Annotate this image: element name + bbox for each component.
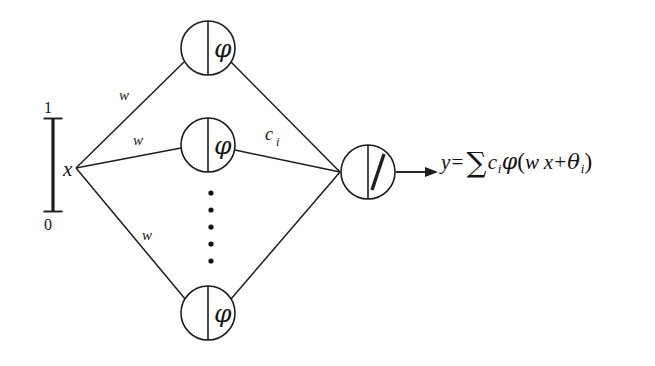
- output-formula: y=∑ciφ(w x+θi): [441, 146, 592, 179]
- formula-w: w: [525, 150, 539, 174]
- neural-network-figure: 1 0 x w w w c i φ: [0, 0, 655, 366]
- formula-plus: +: [554, 150, 566, 174]
- formula-equals: =: [452, 150, 464, 174]
- output-arrow-head: [425, 167, 438, 177]
- input-range-top-label: 1: [44, 99, 52, 116]
- diagram-canvas: 1 0 x w w w c i φ: [0, 0, 655, 366]
- ellipsis-dot: [208, 241, 213, 246]
- hidden-node-bottom-phi-glyph: φ: [214, 299, 232, 328]
- formula-y: y: [441, 150, 451, 174]
- ellipsis-dot: [208, 190, 213, 195]
- hidden-node-top-phi-glyph: φ: [214, 34, 232, 63]
- hidden-node-bottom[interactable]: φ: [181, 286, 235, 340]
- input-range-bottom-label: 0: [44, 216, 52, 233]
- ellipsis-dot: [208, 258, 213, 263]
- edge-hidden-middle-to-output: [235, 150, 340, 172]
- output-arrow: [396, 167, 438, 177]
- hidden-node-top[interactable]: φ: [181, 21, 235, 75]
- formula-open-paren: (: [517, 149, 525, 174]
- edge-weight-label-top: w: [119, 87, 129, 103]
- vertical-ellipsis: [208, 190, 213, 263]
- coefficient-label: c: [265, 124, 273, 144]
- edge-weight-label-bottom: w: [142, 227, 152, 243]
- ellipsis-dot: [208, 207, 213, 212]
- output-node[interactable]: [341, 145, 395, 199]
- edge-input-to-hidden-middle: [76, 148, 181, 168]
- edge-hidden-top-to-output: [231, 62, 340, 172]
- formula-coefficient: c: [488, 150, 498, 174]
- edge-weight-label-middle: w: [133, 132, 143, 148]
- formula-sigma: ∑: [467, 146, 487, 179]
- formula-close-paren: ): [584, 149, 592, 174]
- hidden-node-middle[interactable]: φ: [181, 118, 235, 172]
- input-range-bar: [44, 118, 63, 212]
- formula-phi: φ: [502, 149, 518, 174]
- edge-input-to-hidden-top: [76, 62, 184, 168]
- edge-hidden-bottom-to-output: [231, 172, 340, 299]
- input-to-hidden-edges: [76, 62, 186, 300]
- hidden-node-middle-phi-glyph: φ: [214, 131, 232, 160]
- formula-x: x: [544, 150, 554, 174]
- edge-input-to-hidden-bottom: [76, 168, 186, 300]
- coefficient-subscript: i: [276, 135, 279, 149]
- hidden-to-output-edges: [231, 62, 340, 299]
- input-variable-label: x: [62, 157, 73, 181]
- coefficient-label-group: c i: [265, 124, 279, 149]
- formula-theta: θ: [567, 150, 580, 174]
- ellipsis-dot: [208, 224, 213, 229]
